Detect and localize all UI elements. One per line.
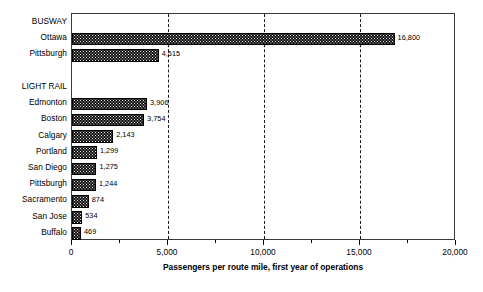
bar — [72, 130, 113, 143]
bar-row: 1,299 — [72, 144, 454, 160]
bar — [72, 227, 81, 240]
x-tick-major-15000 — [359, 240, 360, 245]
bar-value-label: 1,275 — [99, 161, 118, 173]
y-axis-label-ottawa: Ottawa — [0, 29, 67, 45]
bar-value-label: 874 — [92, 194, 104, 206]
bar-value-label: 534 — [85, 210, 97, 222]
x-tick-label-10000: 10,000 — [250, 247, 275, 257]
y-axis-label-spacer — [0, 62, 67, 78]
x-tick-label-0: 0 — [69, 247, 74, 257]
bar-row: 3,906 — [72, 95, 454, 111]
bar-row: 2,143 — [72, 128, 454, 144]
x-axis-title: Passengers per route mile, first year of… — [71, 262, 455, 272]
bar — [72, 33, 395, 46]
bar — [72, 49, 159, 62]
bar-row: 534 — [72, 209, 454, 225]
x-tick-major-0 — [71, 240, 72, 245]
x-tick-major-5000 — [167, 240, 168, 245]
bar — [72, 211, 82, 224]
x-tick-label-5000: 5,000 — [157, 247, 178, 257]
y-axis-label-light-rail: LIGHT RAIL — [0, 78, 67, 94]
bar-row: 16,800 — [72, 30, 454, 46]
y-axis-label-portland: Portland — [0, 143, 67, 159]
y-axis-label-busway: BUSWAY — [0, 13, 67, 29]
bar-rows: 16,8004,5153,9063,7542,1431,2991,2751,24… — [72, 14, 454, 239]
x-tick-minor-17500 — [407, 240, 408, 243]
bar — [72, 195, 89, 208]
x-tick-minor-12500 — [311, 240, 312, 243]
bar — [72, 163, 96, 176]
bar-row: 469 — [72, 225, 454, 241]
bar-row — [72, 14, 454, 30]
x-tick-major-20000 — [455, 240, 456, 245]
x-tick-major-10000 — [263, 240, 264, 245]
bar-value-label: 1,244 — [99, 178, 118, 190]
bar-row: 4,515 — [72, 46, 454, 62]
bar — [72, 98, 147, 111]
y-axis-label-buffalo: Buffalo — [0, 224, 67, 240]
x-tick-label-15000: 15,000 — [346, 247, 371, 257]
bar — [72, 114, 144, 127]
x-tick-minor-2500 — [119, 240, 120, 243]
x-tick-label-20000: 20,000 — [442, 247, 467, 257]
horizontal-bar-chart: 16,8004,5153,9063,7542,1431,2991,2751,24… — [0, 0, 483, 292]
x-axis-ticks — [71, 240, 455, 246]
y-axis-label-sacramento: Sacramento — [0, 191, 67, 207]
bar-value-label: 3,754 — [147, 113, 166, 125]
y-axis-category-labels: BUSWAYOttawaPittsburghLIGHT RAILEdmonton… — [0, 13, 67, 240]
bar-value-label: 3,906 — [150, 97, 169, 109]
y-axis-label-calgary: Calgary — [0, 127, 67, 143]
y-axis-label-san-diego: San Diego — [0, 159, 67, 175]
bar-row: 874 — [72, 192, 454, 208]
y-axis-label-san-jose: San Jose — [0, 208, 67, 224]
bar-value-label: 4,515 — [162, 48, 181, 60]
y-axis-label-pittsburgh: Pittsburgh — [0, 45, 67, 61]
bar-value-label: 469 — [84, 226, 96, 238]
bar-row: 3,754 — [72, 111, 454, 127]
bar-row — [72, 79, 454, 95]
bar-row — [72, 63, 454, 79]
bar-row: 1,275 — [72, 160, 454, 176]
bar-value-label: 16,800 — [398, 32, 421, 44]
x-tick-minor-7500 — [215, 240, 216, 243]
bar-row: 1,244 — [72, 176, 454, 192]
x-axis-tick-labels: 05,00010,00015,00020,000 — [0, 247, 483, 261]
bar — [72, 179, 96, 192]
bar-value-label: 1,299 — [100, 145, 119, 157]
bar — [72, 146, 97, 159]
y-axis-label-pittsburgh: Pittsburgh — [0, 175, 67, 191]
plot-area: 16,8004,5153,9063,7542,1431,2991,2751,24… — [71, 13, 455, 240]
bar-value-label: 2,143 — [116, 129, 135, 141]
y-axis-label-edmonton: Edmonton — [0, 94, 67, 110]
y-axis-label-boston: Boston — [0, 110, 67, 126]
